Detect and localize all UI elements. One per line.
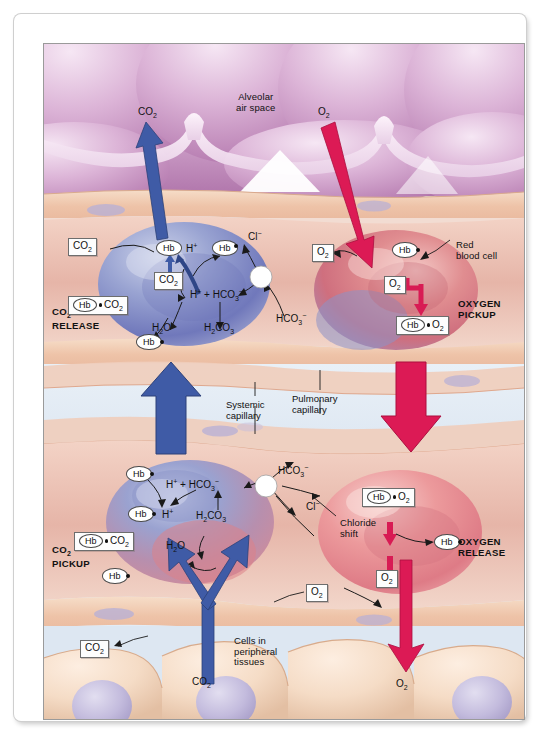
figure-frame: Alveolar air space Red blood cell System… [14, 14, 526, 721]
label-cl-minus-release: Cl− [248, 230, 262, 242]
hb-binding-dot-released [160, 340, 164, 344]
figure-stage: Alveolar air space Red blood cell System… [0, 0, 540, 735]
box-hb-co2-pickup: HbCO2 [74, 532, 134, 551]
arrow-label-o2-from-alveolus: O2 [318, 106, 330, 119]
label-alveolar-air-space: Alveolar air space [236, 92, 275, 113]
box-co2-extracellular-release: CO2 [68, 238, 97, 256]
hb-binding-dot-free-pickup [126, 574, 130, 578]
ellipse-hb-released: Hb [136, 334, 162, 350]
ellipse-hb-pickup: Hb [392, 242, 418, 258]
diagram-canvas: Alveolar air space Red blood cell System… [44, 44, 524, 719]
ellipse-hb-free-release: Hb [212, 240, 238, 256]
label-h-hco3-release: H+ + HCO3− [190, 288, 243, 302]
box-hb-o2-pickup: HbO2 [396, 316, 449, 335]
box-co2-intracellular-release: CO2 [154, 272, 183, 290]
ellipse-hb-carrier-release: Hb [156, 240, 182, 256]
box-co2-tissue-exit: CO2 [80, 640, 109, 658]
caption-oxygen-release: OXYGEN RELEASE [458, 536, 505, 558]
label-chloride-shift: Chloride shift [340, 518, 376, 539]
label-pulmonary-capillary: Pulmonary capillary [292, 394, 337, 416]
label-o2-arrow-base: O2 [396, 678, 408, 691]
label-red-blood-cell: Red blood cell [456, 240, 497, 261]
alveoli-group [44, 44, 524, 214]
box-o2-extracellular-release: O2 [306, 584, 328, 602]
label-h-plus-pickup: H+ [162, 508, 173, 520]
ellipse-hb-co2-pickup-top: Hb [126, 466, 152, 482]
label-hco3-extracellular-release: HCO3− [276, 312, 306, 326]
hb-binding-dot-h-pickup [152, 512, 156, 516]
label-h2co3-release: H2CO3 [204, 322, 234, 335]
label-systemic-capillary: Systemic capillary [226, 400, 265, 422]
box-o2-intracellular-pickup: O2 [384, 276, 406, 294]
hb-binding-dot-release-panel [458, 540, 462, 544]
arrow-label-co2-to-alveolus: CO2 [138, 106, 157, 119]
label-h2co3-pickup: H2CO3 [196, 510, 226, 523]
caption-oxygen-pickup: OXYGEN PICKUP [458, 298, 501, 320]
ellipse-hb-free-release-panel: Hb [434, 534, 460, 550]
hb-binding-dot-release [234, 244, 238, 248]
label-h-hco3-pickup: H+ + HCO3− [166, 478, 219, 492]
label-hco3-extracellular-pickup: HCO3− [278, 464, 308, 478]
hb-binding-dot-pickup [416, 248, 420, 252]
hb-binding-dot-pickup-top [150, 472, 154, 476]
box-hb-co2-release: HbCO2 [68, 296, 128, 315]
label-h2o-pickup: H2O [166, 540, 185, 553]
box-o2-intracellular-release: O2 [376, 570, 398, 588]
label-h-plus-release: H+ [186, 242, 197, 254]
label-peripheral-tissue-cells: Cells in peripheral tissues [234, 636, 277, 668]
label-h2o-release: H2O [152, 322, 171, 335]
box-hb-o2-release: HbO2 [362, 488, 415, 507]
ellipse-hb-free-pickup: Hb [102, 568, 128, 584]
diagram-artwork [44, 44, 524, 719]
box-o2-extracellular-pickup: O2 [312, 244, 334, 262]
label-co2-arrow-base: CO2 [192, 676, 211, 689]
label-cl-minus-pickup: Cl− [306, 500, 320, 512]
ellipse-hb-h-pickup: Hb [128, 506, 154, 522]
